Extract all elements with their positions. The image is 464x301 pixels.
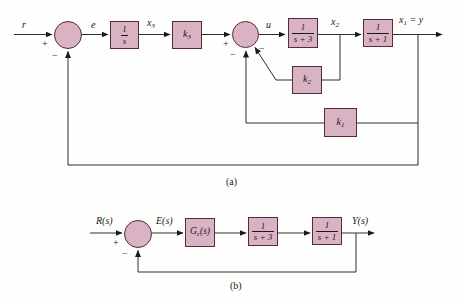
plant-s3-numerator-a: 1 — [292, 22, 315, 32]
summing-junction-1 — [54, 21, 82, 49]
controller-base: G — [190, 226, 197, 236]
plant-s3-fraction-a: 1 s + 3 — [292, 22, 315, 44]
integrator-denominator: s — [121, 35, 129, 46]
gain-k1-label: k1 — [337, 117, 345, 129]
sum1-minus-sign: − — [52, 51, 58, 61]
sum2-plus-sign: + — [223, 39, 229, 49]
signal-r-label: r — [22, 20, 26, 30]
controller-block: Gc(s) — [185, 218, 215, 247]
x3-subscript: 3 — [151, 22, 155, 30]
integrator-block: 1 s — [110, 21, 139, 49]
plant-s3-numerator-b: 1 — [252, 221, 275, 231]
sum2-minus-lower-sign: − — [230, 50, 236, 60]
signal-x1y-label: x1 = y — [399, 15, 423, 27]
signal-x2-label: x2 — [331, 17, 339, 29]
k1-subscript: 1 — [341, 121, 345, 129]
summing-junction-2 — [232, 21, 259, 48]
gain-k3-block: k3 — [172, 21, 202, 49]
figure-block-diagrams: 1 s k3 1 s + 3 1 s + 1 k2 k1 r e x3 u x2… — [0, 0, 464, 301]
plant-s3-block-a: 1 s + 3 — [288, 18, 318, 48]
k2-subscript: 2 — [307, 78, 311, 86]
signal-ys-label: Y(s) — [352, 216, 368, 226]
signal-e-label: e — [91, 20, 95, 30]
controller-rest: (s) — [200, 226, 210, 236]
gain-k3-label: k3 — [183, 29, 191, 41]
gain-k2-label: k2 — [303, 74, 311, 86]
controller-label: Gc(s) — [190, 227, 210, 238]
wire-outer-feedback-to-sum1 — [68, 52, 418, 166]
plant-s3-block-b: 1 s + 3 — [248, 217, 278, 246]
gain-k1-block: k1 — [324, 108, 357, 137]
plant-s1-block-a: 1 s + 1 — [363, 19, 393, 47]
plant-s3-fraction-b: 1 s + 3 — [252, 221, 275, 243]
plant-s1-numerator-a: 1 — [367, 22, 390, 32]
caption-a: (a) — [226, 177, 237, 187]
wire-x2-tap-to-k2 — [322, 35, 340, 81]
signal-u-label: u — [266, 20, 271, 30]
sum1-plus-sign: + — [42, 39, 48, 49]
signal-es-label: E(s) — [156, 216, 173, 226]
sum2-minus-inner-sign: − — [259, 44, 265, 54]
plant-s3-denominator-a: s + 3 — [292, 33, 315, 44]
sumb-minus-sign: − — [122, 249, 128, 259]
x1y-rest: = y — [407, 14, 423, 25]
gain-k2-block: k2 — [292, 66, 322, 94]
signal-rs-label: R(s) — [96, 216, 113, 226]
sumb-plus-sign: + — [113, 238, 119, 248]
summing-junction-b — [124, 220, 152, 248]
plant-s1-fraction-a: 1 s + 1 — [367, 22, 390, 44]
plant-s3-denominator-b: s + 3 — [252, 231, 275, 242]
integrator-fraction: 1 s — [121, 24, 129, 46]
integrator-numerator: 1 — [121, 24, 129, 34]
plant-s1-block-b: 1 s + 1 — [312, 217, 342, 245]
plant-s1-denominator-b: s + 1 — [316, 231, 339, 242]
plant-s1-fraction-b: 1 s + 1 — [316, 220, 339, 242]
diagram-a-wires — [14, 35, 442, 166]
caption-b: (b) — [230, 281, 242, 291]
x2-subscript: 2 — [335, 21, 339, 29]
k3-subscript: 3 — [187, 33, 191, 41]
plant-s1-numerator-b: 1 — [316, 220, 339, 230]
plant-s1-denominator-a: s + 1 — [367, 33, 390, 44]
signal-x3-label: x3 — [147, 18, 155, 30]
